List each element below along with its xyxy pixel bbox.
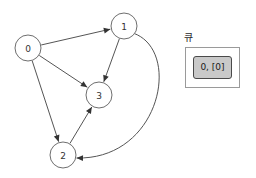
graph-node-0[interactable]: 0 [15, 35, 41, 61]
edge-arrowhead [86, 107, 92, 114]
graph-diagram: 0132 [0, 0, 256, 178]
visualization-canvas: 0132 큐 0, [0] [0, 0, 256, 178]
queue-items-list: 0, [0] [186, 48, 239, 87]
node-label: 0 [25, 44, 31, 54]
edge-line [104, 39, 120, 82]
edge-arrowhead [54, 135, 60, 142]
node-label: 3 [96, 91, 102, 101]
edge-line [41, 29, 110, 45]
graph-node-1[interactable]: 1 [111, 13, 137, 39]
edge-arrowhead [80, 81, 87, 87]
edge-arrowhead [77, 155, 84, 161]
node-label: 1 [121, 22, 127, 32]
graph-edge-0-to-2 [32, 61, 59, 142]
graph-node-3[interactable]: 3 [86, 82, 112, 108]
graph-edge-0-to-1 [41, 28, 110, 45]
node-label: 2 [60, 151, 66, 161]
graph-edge-2-to-3 [70, 107, 92, 143]
edge-arrowhead [103, 28, 110, 34]
edge-line [32, 61, 58, 142]
queue-panel: 0, [0] [185, 47, 240, 88]
graph-edge-1-to-3 [103, 39, 119, 82]
graph-node-2[interactable]: 2 [50, 142, 76, 168]
nodes-layer: 0132 [15, 13, 137, 168]
queue-panel-title: 큐 [184, 32, 193, 43]
edge-arrowhead [103, 75, 108, 82]
graph-edge-0-to-3 [39, 55, 87, 87]
edge-line [39, 55, 87, 87]
queue-cell: 0, [0] [193, 56, 231, 79]
